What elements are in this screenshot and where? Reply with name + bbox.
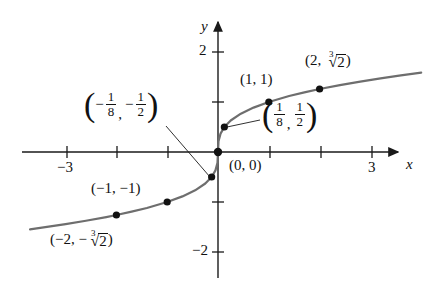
denominator: 8 <box>106 104 117 119</box>
paren-open: ( <box>84 90 95 119</box>
data-point-p-neg2 <box>113 211 120 218</box>
paren-close: ) <box>346 52 351 68</box>
y-tick-label-2: 2 <box>199 43 207 58</box>
graph-figure: y x −3 3 2 −2 (0, 0) (1, 1) (−1, −1) (2,… <box>0 0 429 296</box>
paren-close: ) <box>147 90 158 119</box>
x-value: 2, <box>310 52 321 68</box>
numerator: 1 <box>106 90 117 104</box>
numerator: 1 <box>136 90 147 104</box>
paren-close: ) <box>306 100 317 129</box>
cube-root-plot <box>0 0 429 296</box>
cube-root-radical: 3√2 <box>325 54 346 70</box>
fraction-one-half: 12 <box>136 90 147 119</box>
radical-index: 3 <box>91 229 96 238</box>
point-label-2-cbrt2: (2, 3√2) <box>305 53 351 70</box>
fraction-pair: (−18,−12) <box>84 90 158 119</box>
fraction-one-eighth: 18 <box>274 100 285 129</box>
point-label-eighth-half: (18,12) <box>262 100 317 129</box>
x-minus-sign: − <box>95 97 104 112</box>
paren-close: ) <box>108 231 113 247</box>
point-label-neg2-neg-cbrt2: (−2, −3√2) <box>50 232 113 249</box>
numerator: 1 <box>274 100 285 114</box>
numerator: 1 <box>295 100 306 114</box>
cube-root-radical: 3√2 <box>87 233 108 249</box>
minus-sign: − <box>78 231 86 247</box>
fraction-one-eighth: 18 <box>106 90 117 119</box>
data-point-p-neg1 <box>164 198 171 205</box>
y-minus-sign: − <box>125 97 134 112</box>
y-tick-label--2: −2 <box>192 243 208 258</box>
fraction-pair: (18,12) <box>262 100 317 129</box>
data-point-p-pos2 <box>316 85 323 92</box>
paren-open: ( <box>262 100 273 129</box>
x-tick-label--3: −3 <box>57 160 73 175</box>
point-label-neg1-neg1: (−1, −1) <box>91 181 140 196</box>
radicand: 2 <box>98 233 108 249</box>
leader-line-eighth-half <box>227 120 260 127</box>
x-axis-label: x <box>406 157 413 172</box>
comma-separator: , <box>117 107 125 122</box>
data-point-p-neg-eighth <box>208 173 215 180</box>
x-tick-label-3: 3 <box>368 160 376 175</box>
point-label-1-1: (1, 1) <box>240 72 273 87</box>
y-axis-label: y <box>201 19 208 34</box>
data-point-p-origin <box>214 148 222 156</box>
denominator: 2 <box>136 104 147 119</box>
comma-separator: , <box>286 117 294 132</box>
x-value: −2, <box>55 231 75 247</box>
fraction-one-half: 12 <box>295 100 306 129</box>
point-label-origin: (0, 0) <box>229 158 262 173</box>
point-label-neg-eighth-neg-half: (−18,−12) <box>84 90 158 119</box>
radicand: 2 <box>336 54 346 70</box>
radical-index: 3 <box>329 50 334 59</box>
denominator: 2 <box>295 114 306 129</box>
denominator: 8 <box>274 114 285 129</box>
data-point-p-pos-eighth <box>221 123 228 130</box>
